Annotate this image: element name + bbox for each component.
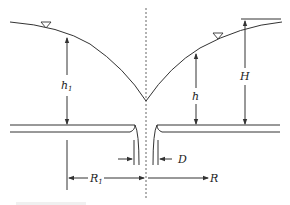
drawdown-curve-left (10, 22, 146, 101)
R-label: R (209, 172, 218, 185)
h1-label: h1 (61, 79, 73, 93)
triangle-down-icon (41, 22, 51, 28)
H-label: H (239, 70, 250, 83)
D-label: D (177, 153, 187, 166)
faded-caption-block (16, 202, 86, 205)
h-label: h (192, 90, 199, 103)
triangle-down-icon (213, 33, 223, 39)
well-drawdown-diagram: h1 h H D R1 R (0, 0, 290, 205)
R1-label: R1 (89, 172, 103, 186)
